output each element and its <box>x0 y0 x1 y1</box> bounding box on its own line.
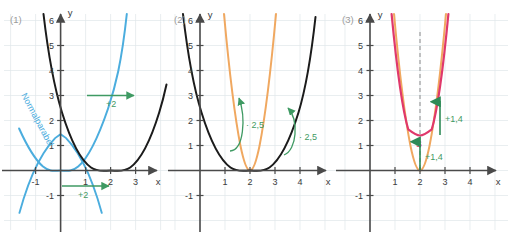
x-tick-label: 3 <box>133 177 138 187</box>
panel-2-plot: 1 2 3 4 -1 1 2 3 4 5 6 x y (2) · 2,5 · 2… <box>168 0 336 237</box>
annotation-stretch-arc-left: · 2,5 <box>230 98 264 151</box>
annotation-label: · 2,5 <box>246 120 264 130</box>
y-axis-label: y <box>378 9 383 20</box>
y-tick-label: 2 <box>358 116 363 126</box>
y-tick-label: 5 <box>358 41 363 51</box>
panel-label: (2) <box>174 14 186 25</box>
panel-label: (1) <box>10 14 22 25</box>
y-tick-label: 2 <box>49 116 54 126</box>
y-tick-label: 1 <box>358 141 363 151</box>
panel-1-plot: -1 1 2 3 -1 1 2 3 4 5 6 x y (1) Normalpa… <box>0 0 168 237</box>
y-tick-label: 4 <box>49 66 54 76</box>
annotation-label: +1,4 <box>445 114 463 124</box>
x-tick-label: 2 <box>247 177 252 187</box>
annotation-label: · 2,5 <box>299 132 317 142</box>
y-tick-label: 5 <box>188 41 193 51</box>
curve-shifted-parabola <box>44 14 167 171</box>
panel-label: (3) <box>342 14 354 25</box>
y-tick-label: 3 <box>188 91 193 101</box>
y-tick-label: 3 <box>49 91 54 101</box>
x-tick-label: -1 <box>32 177 40 187</box>
curve-base-parabola <box>183 14 316 171</box>
y-tick-label: -1 <box>185 191 193 201</box>
vertex-label-s: S <box>416 139 422 149</box>
panel-3-plot: 1 2 3 4 -1 1 2 3 4 5 6 x y (3) S +1,4 <box>336 0 508 237</box>
y-tick-label: 6 <box>358 16 363 26</box>
x-tick-label: 4 <box>297 177 302 187</box>
annotation-label: +2 <box>106 99 116 109</box>
y-tick-label: 6 <box>188 16 193 26</box>
x-tick-label: 4 <box>467 177 472 187</box>
x-tick-label: 2 <box>417 177 422 187</box>
annotation-stretch-arc-right: · 2,5 <box>284 108 317 155</box>
y-tick-label: -1 <box>46 191 54 201</box>
y-tick-label: 2 <box>188 116 193 126</box>
annotation-label: +2 <box>78 190 88 200</box>
y-tick-label: 4 <box>358 66 363 76</box>
y-tick-label: 6 <box>49 16 54 26</box>
y-tick-label: 1 <box>188 141 193 151</box>
y-tick-label: 5 <box>49 41 54 51</box>
panel-1: -1 1 2 3 -1 1 2 3 4 5 6 x y (1) Normalpa… <box>0 0 168 237</box>
y-axis-label: y <box>68 7 73 18</box>
figure-sheet: -1 1 2 3 -1 1 2 3 4 5 6 x y (1) Normalpa… <box>0 0 508 237</box>
panel-2: 1 2 3 4 -1 1 2 3 4 5 6 x y (2) · 2,5 · 2… <box>168 0 336 237</box>
x-tick-label: 3 <box>272 177 277 187</box>
y-tick-label: -1 <box>355 191 363 201</box>
x-tick-label: 1 <box>392 177 397 187</box>
x-axis-label: x <box>496 176 501 187</box>
y-axis-label: y <box>208 9 213 20</box>
y-tick-label: 3 <box>358 91 363 101</box>
y-tick-label: 4 <box>188 66 193 76</box>
x-axis-label: x <box>156 176 161 187</box>
x-tick-label: 1 <box>222 177 227 187</box>
x-tick-label: 3 <box>442 177 447 187</box>
annotation-label: +1,4 <box>425 152 443 162</box>
annotation-shift-arrow-right: +1,4 <box>440 101 463 135</box>
x-axis-label: x <box>326 176 331 187</box>
panel-3: 1 2 3 4 -1 1 2 3 4 5 6 x y (3) S +1,4 <box>336 0 508 237</box>
